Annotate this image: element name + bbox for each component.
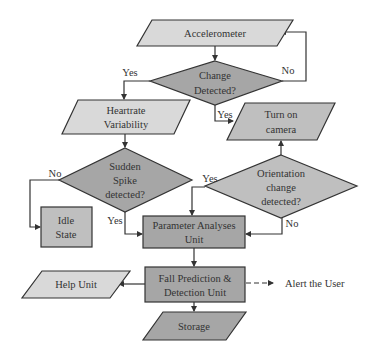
storage-label: Storage	[178, 321, 210, 332]
edge-label-orientation-yes: Yes	[202, 173, 217, 184]
heartrate-line1: Heartrate	[106, 105, 145, 116]
edge-label-spike-no: No	[49, 168, 62, 179]
edge-label-change-yes-down: Yes	[217, 109, 232, 120]
orientation-line3: detected?	[261, 196, 301, 207]
node-parameter-analyses: Parameter Analyses Unit	[143, 216, 245, 248]
node-idle-state: Idle State	[41, 207, 92, 247]
camera-line2: camera	[266, 124, 297, 135]
help-label: Help Unit	[55, 279, 97, 290]
spike-line3: detected?	[105, 189, 145, 200]
idle-line2: State	[56, 229, 77, 240]
accelerometer-label: Accelerometer	[184, 28, 246, 39]
spike-line1: Sudden	[109, 161, 141, 172]
param-line1: Parameter Analyses	[152, 220, 235, 231]
node-sudden-spike: Sudden Spike detected?	[59, 148, 192, 212]
camera-line1: Turn on	[264, 109, 298, 120]
node-orientation: Orientation change detected?	[205, 155, 357, 218]
param-line2: Unit	[185, 234, 204, 245]
node-accelerometer: Accelerometer	[137, 20, 293, 46]
edge-orientation-no-param	[246, 218, 282, 234]
node-change-detected: Change Detected?	[150, 61, 282, 105]
heartrate-line2: Variability	[104, 119, 149, 130]
node-fall-prediction: Fall Prediction & Detection Unit	[145, 267, 245, 302]
fall-line2: Detection Unit	[164, 287, 226, 298]
change-line1: Change	[199, 70, 231, 81]
spike-line2: Spike	[113, 175, 137, 186]
edge-label-change-yes-left: Yes	[122, 67, 137, 78]
edge-label-change-no: No	[282, 65, 295, 76]
edge-orientation-yes-param	[192, 187, 205, 215]
change-line2: Detected?	[194, 85, 236, 96]
node-help-unit: Help Unit	[22, 271, 130, 298]
node-turn-on-camera: Turn on camera	[227, 103, 335, 140]
fall-line1: Fall Prediction &	[159, 273, 232, 284]
orientation-line2: change	[266, 182, 296, 193]
idle-line1: Idle	[58, 215, 75, 226]
orientation-line1: Orientation	[257, 168, 306, 179]
edge-spike-yes-param	[125, 212, 142, 234]
edge-change-yes-heartrate	[124, 81, 150, 99]
flowchart: Accelerometer Change Detected? Heartrate…	[0, 0, 377, 362]
edge-label-spike-yes: Yes	[107, 215, 122, 226]
node-storage: Storage	[143, 312, 246, 340]
node-heartrate: Heartrate Variability	[62, 100, 190, 134]
alert-label: Alert the User	[285, 278, 345, 289]
edge-label-orientation-no: No	[286, 218, 299, 229]
